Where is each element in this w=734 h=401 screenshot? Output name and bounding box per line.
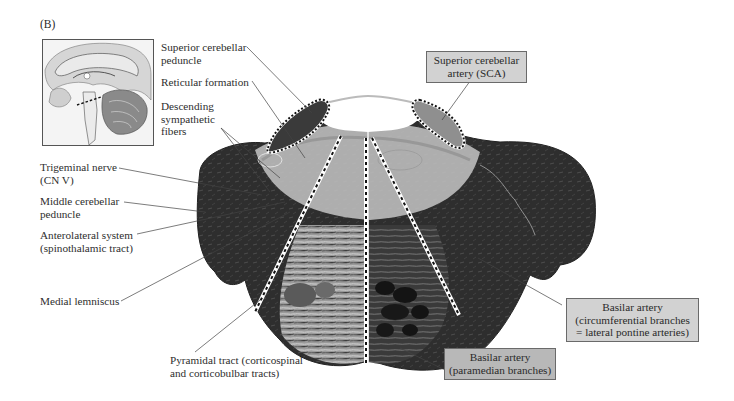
label-anterolateral-system: Anterolateral system (spinothalamic trac… (40, 229, 133, 254)
label-middle-cerebellar-peduncle: Middle cerebellar peduncle (40, 195, 119, 220)
label-reticular-formation: Reticular formation (161, 76, 249, 89)
label-superior-cerebellar-peduncle: Superior cerebellar peduncle (161, 41, 246, 66)
label-pyramidal-tract: Pyramidal tract (corticospinal and corti… (170, 354, 303, 379)
box-basilar-circumferential-branches: Basilar artery (circumferential branches… (566, 298, 699, 342)
box-superior-cerebellar-artery: Superior cerebellar artery (SCA) (426, 51, 527, 83)
label-descending-sympathetic-fibers: Descending sympathetic fibers (161, 100, 215, 138)
label-medial-lemniscus: Medial lemniscus (40, 295, 119, 308)
box-basilar-paramedian-branches: Basilar artery (paramedian branches) (444, 348, 556, 380)
label-trigeminal-nerve: Trigeminal nerve (CN V) (40, 161, 117, 186)
